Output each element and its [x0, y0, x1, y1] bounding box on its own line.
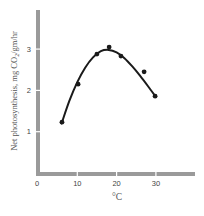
data-point [60, 120, 65, 125]
y-tick-break [35, 90, 41, 91]
y-tick-label: 1 [27, 127, 31, 136]
y-axis-bar [36, 10, 40, 176]
data-point [107, 45, 112, 50]
axes [35, 10, 195, 177]
fitted-curve-path [62, 50, 156, 124]
y-axis-title-suffix: /gm/hr [9, 31, 19, 54]
x-axis-bar [36, 172, 195, 176]
y-tick-break [35, 49, 41, 50]
data-point [142, 69, 147, 74]
y-tick-break [35, 131, 41, 132]
photosynthesis-temperature-chart: Net photosynthesis, mg CO2/gm/hr 123 010… [0, 0, 204, 216]
fitted-curve [62, 50, 156, 124]
y-tick-label: 3 [27, 45, 31, 54]
data-point [95, 52, 100, 57]
y-tick-label: 2 [27, 86, 31, 95]
x-tick-label: 10 [73, 179, 81, 188]
data-point [76, 82, 81, 87]
x-tick-label: 0 [35, 179, 39, 188]
x-tick-label: 30 [152, 179, 160, 188]
data-point [153, 94, 158, 99]
x-tick-labels: 0102030 [35, 179, 160, 188]
x-tick-label: 20 [112, 179, 120, 188]
y-tick-labels: 123 [27, 45, 31, 137]
x-tick-break [116, 171, 117, 177]
y-axis-title: Net photosynthesis, mg CO2/gm/hr [9, 31, 20, 151]
y-axis-title-group: Net photosynthesis, mg CO2/gm/hr [9, 31, 20, 151]
x-tick-break [77, 171, 78, 177]
x-axis-title: °C [112, 192, 122, 202]
y-axis-title-prefix: Net photosynthesis, mg CO [9, 57, 19, 151]
x-tick-break [155, 171, 156, 177]
data-points [60, 45, 158, 125]
data-point [119, 54, 124, 59]
